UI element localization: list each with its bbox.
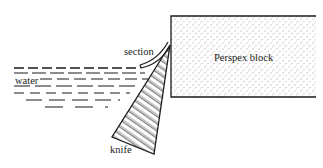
section-label: section	[124, 46, 154, 57]
knife-label: knife	[110, 144, 132, 155]
diagram-canvas: section Perspex block water knife	[0, 0, 323, 168]
water	[14, 68, 148, 107]
knife	[112, 45, 170, 154]
block-label: Perspex block	[214, 52, 274, 63]
water-label: water	[15, 75, 39, 86]
